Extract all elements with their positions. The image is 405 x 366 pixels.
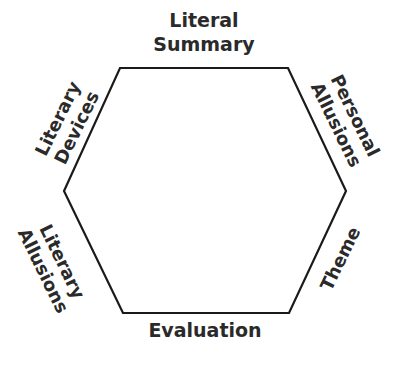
hexagon-outline [64, 68, 346, 313]
label-literal-summary-line2: Summary [140, 32, 268, 56]
label-literal-summary: Literal Summary [140, 8, 268, 56]
label-literal-summary-line1: Literal [140, 8, 268, 32]
label-evaluation: Evaluation [130, 318, 280, 342]
label-evaluation-line1: Evaluation [130, 318, 280, 342]
hexagon-diagram: Literal Summary Personal Allusions Theme… [0, 0, 405, 366]
